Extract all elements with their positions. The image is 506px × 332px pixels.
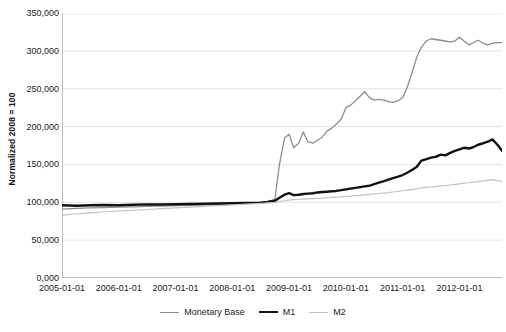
legend-item-label: Monetary Base [184,307,245,317]
legend-line-swatch-icon [259,311,278,313]
x-tick-label: 2007-01-01 [153,283,199,293]
legend-line-swatch-icon [160,312,179,313]
y-tick-label: 350,000 [1,8,59,18]
chart-container: Normalized 2008 = 100 0,00050,000100,000… [0,0,506,332]
x-tick-label: 2005-01-01 [39,283,85,293]
axis-lines [62,13,502,278]
y-tick-label: 200,000 [1,122,59,132]
gridlines [62,13,502,278]
x-tick-label: 2008-01-01 [209,283,255,293]
y-tick-label: 250,000 [1,84,59,94]
y-tick-label: 0,000 [1,273,59,283]
legend-item-label: M2 [333,307,346,317]
legend-line-swatch-icon [309,312,328,313]
y-tick-label: 100,000 [1,197,59,207]
x-tick-label: 2009-01-01 [266,283,312,293]
legend-item-label: M1 [283,307,296,317]
x-tick-label: 2012-01-01 [436,283,482,293]
plot-svg [62,13,502,278]
chart-legend: Monetary BaseM1M2 [0,307,506,317]
legend-item-m1[interactable]: M1 [259,307,296,317]
y-tick-label: 50,000 [1,235,59,245]
legend-item-monetary-base[interactable]: Monetary Base [160,307,245,317]
x-tick-label: 2011-01-01 [380,283,425,293]
x-tick-label: 2006-01-01 [96,283,142,293]
legend-item-m2[interactable]: M2 [309,307,346,317]
series-line-monetary-base [62,37,502,209]
x-tick-label: 2010-01-01 [323,283,369,293]
plot-area [62,13,502,278]
y-tick-label: 300,000 [1,46,59,56]
y-tick-label: 150,000 [1,159,59,169]
